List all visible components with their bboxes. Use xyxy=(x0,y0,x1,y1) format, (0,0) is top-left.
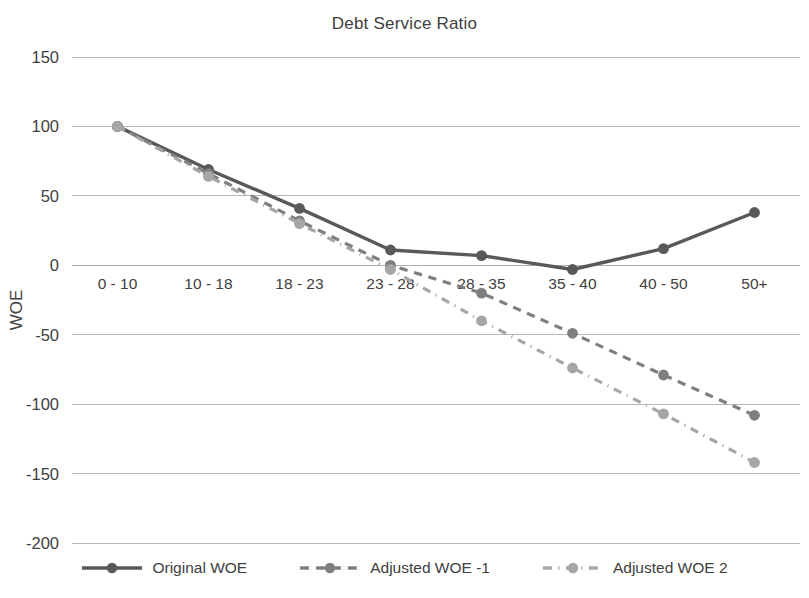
data-point-marker xyxy=(385,264,396,275)
legend-swatch xyxy=(81,561,143,575)
legend-swatch xyxy=(542,561,604,575)
data-point-marker xyxy=(294,203,305,214)
data-point-marker xyxy=(567,328,578,339)
plot-area: 150100500-50-100-150-200 0 - 1010 - 1818… xyxy=(0,0,809,598)
data-point-marker xyxy=(749,410,760,421)
legend-label: Adjusted WOE 2 xyxy=(613,559,728,577)
x-axis-tick-label: 40 - 50 xyxy=(639,275,688,292)
chart-legend: Original WOEAdjusted WOE -1Adjusted WOE … xyxy=(0,559,809,577)
y-axis-tick-labels: 150100500-50-100-150-200 xyxy=(26,48,59,552)
data-point-marker xyxy=(203,171,214,182)
data-point-marker xyxy=(385,245,396,256)
y-axis-tick-label: -200 xyxy=(26,534,59,552)
y-axis-tick-label: 100 xyxy=(31,117,59,135)
y-axis-tick-label: -150 xyxy=(26,465,59,483)
data-series xyxy=(112,121,760,468)
y-axis-tick-label: 0 xyxy=(50,256,59,274)
legend-label: Adjusted WOE -1 xyxy=(370,559,490,577)
legend-item[interactable]: Adjusted WOE -1 xyxy=(299,559,490,577)
data-point-marker xyxy=(112,121,123,132)
data-point-marker xyxy=(294,218,305,229)
data-point-marker xyxy=(476,315,487,326)
x-axis-tick-label: 50+ xyxy=(741,275,767,292)
x-axis-tick-label: 18 - 23 xyxy=(275,275,323,292)
x-axis-tick-label: 35 - 40 xyxy=(548,275,597,292)
data-point-marker xyxy=(749,207,760,218)
x-axis-tick-label: 10 - 18 xyxy=(184,275,232,292)
y-axis-tick-label: 50 xyxy=(41,187,59,205)
legend-label: Original WOE xyxy=(152,559,247,577)
gridlines xyxy=(72,57,800,543)
data-point-marker xyxy=(658,409,669,420)
chart-container: Debt Service Ratio 150100500-50-100-150-… xyxy=(0,0,809,598)
y-axis-title: WOE xyxy=(7,290,26,331)
data-point-marker xyxy=(658,370,669,381)
legend-item[interactable]: Original WOE xyxy=(81,559,247,577)
data-point-marker xyxy=(749,457,760,468)
y-axis-tick-label: 150 xyxy=(31,48,59,66)
y-axis-tick-label: -100 xyxy=(26,395,59,413)
y-axis-tick-label: -50 xyxy=(35,326,59,344)
legend-swatch xyxy=(299,561,361,575)
data-point-marker xyxy=(476,250,487,261)
legend-item[interactable]: Adjusted WOE 2 xyxy=(542,559,728,577)
x-axis-tick-label: 0 - 10 xyxy=(98,275,138,292)
data-point-marker xyxy=(476,288,487,299)
data-point-marker xyxy=(567,264,578,275)
data-point-marker xyxy=(567,363,578,374)
data-point-marker xyxy=(658,243,669,254)
